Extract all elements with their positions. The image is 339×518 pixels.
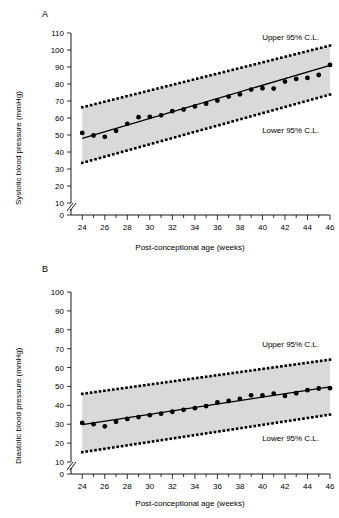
svg-text:24: 24 (78, 482, 87, 491)
svg-text:30: 30 (145, 482, 154, 491)
svg-text:46: 46 (326, 482, 335, 491)
svg-text:32: 32 (168, 223, 177, 232)
panel-b: B Diastolic blood pressure (mmHg) Post-c… (0, 259, 339, 518)
svg-text:44: 44 (303, 482, 312, 491)
svg-text:70: 70 (55, 345, 64, 354)
svg-text:38: 38 (235, 482, 244, 491)
svg-text:60: 60 (55, 114, 64, 123)
panel-a: A Systolic blood pressure (mmHg) Post-co… (0, 0, 339, 259)
svg-text:40: 40 (55, 148, 64, 157)
svg-text:40: 40 (55, 401, 64, 410)
svg-text:46: 46 (326, 223, 335, 232)
svg-text:42: 42 (281, 482, 290, 491)
svg-text:38: 38 (235, 223, 244, 232)
svg-text:26: 26 (100, 223, 109, 232)
svg-text:44: 44 (303, 223, 312, 232)
svg-text:26: 26 (100, 482, 109, 491)
svg-text:30: 30 (55, 165, 64, 174)
svg-text:28: 28 (123, 223, 132, 232)
figure-container: A Systolic blood pressure (mmHg) Post-co… (0, 0, 339, 518)
svg-text:Lower 95% C.L.: Lower 95% C.L. (262, 126, 319, 135)
svg-text:80: 80 (55, 326, 64, 335)
svg-text:10: 10 (55, 199, 64, 208)
svg-text:50: 50 (55, 382, 64, 391)
svg-text:90: 90 (55, 63, 64, 72)
svg-text:30: 30 (55, 420, 64, 429)
svg-text:36: 36 (213, 223, 222, 232)
svg-text:24: 24 (78, 223, 87, 232)
svg-text:40: 40 (258, 223, 267, 232)
svg-text:60: 60 (55, 364, 64, 373)
svg-text:Upper 95% C.L.: Upper 95% C.L. (262, 33, 319, 42)
svg-text:32: 32 (168, 482, 177, 491)
svg-text:40: 40 (258, 482, 267, 491)
panel-b-plot: 0102030405060708090100242628303234363840… (0, 259, 339, 518)
svg-text:0: 0 (60, 211, 65, 220)
svg-text:80: 80 (55, 80, 64, 89)
svg-text:100: 100 (51, 288, 65, 297)
svg-text:Lower 95% C.L.: Lower 95% C.L. (262, 434, 319, 443)
svg-text:50: 50 (55, 131, 64, 140)
svg-text:36: 36 (213, 482, 222, 491)
svg-text:100: 100 (51, 46, 65, 55)
svg-text:30: 30 (145, 223, 154, 232)
svg-text:0: 0 (60, 470, 65, 479)
panel-a-plot: 0102030405060708090100110242628303234363… (0, 0, 339, 259)
svg-text:20: 20 (55, 182, 64, 191)
svg-text:20: 20 (55, 439, 64, 448)
svg-text:110: 110 (51, 29, 64, 38)
svg-text:10: 10 (55, 458, 64, 467)
svg-text:42: 42 (281, 223, 290, 232)
svg-text:34: 34 (190, 223, 199, 232)
svg-text:28: 28 (123, 482, 132, 491)
svg-text:34: 34 (190, 482, 199, 491)
svg-text:Upper 95% C.L.: Upper 95% C.L. (262, 340, 319, 349)
svg-text:70: 70 (55, 97, 64, 106)
svg-text:90: 90 (55, 307, 64, 316)
